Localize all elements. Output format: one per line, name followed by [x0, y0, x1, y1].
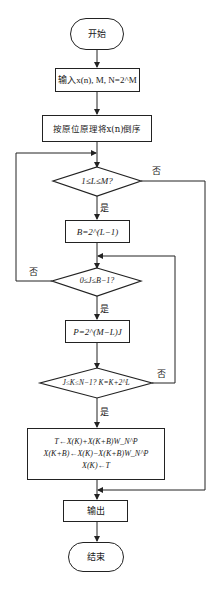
- start-terminal: 开始: [70, 18, 124, 50]
- butterfly-line-2: X(K+B)←X(K)−X(K+B)W_N^P: [44, 448, 149, 460]
- yes-label-k: 是: [100, 407, 109, 417]
- butterfly-line-1: T←X(K)+X(K+B)W_N^P: [54, 436, 138, 448]
- decision-k-text: J≤K≤N−1? K=K+2^L: [44, 377, 148, 389]
- no-label-l: 否: [152, 166, 161, 176]
- set-b-process: B=2^(L−1): [65, 220, 130, 243]
- set-p-process: P=2^(M−L)J: [65, 320, 130, 343]
- yes-label-j: 是: [100, 304, 109, 314]
- output-process: 输出: [63, 500, 128, 522]
- yes-label-l: 是: [100, 203, 109, 213]
- no-label-k: 否: [157, 369, 166, 379]
- input-process: 输入x(n), M, N=2^M: [55, 68, 140, 92]
- end-terminal: 结束: [68, 542, 124, 572]
- butterfly-process: T←X(K)+X(K+B)W_N^P X(K+B)←X(K)−X(K+B)W_N…: [27, 428, 165, 480]
- bit-reverse-process: 按原位原理将x(n)倒序: [42, 115, 152, 142]
- decision-j-text: 0≤J≤B−1?: [58, 275, 136, 287]
- decision-l-text: 1≤L≤M?: [60, 175, 134, 187]
- butterfly-line-3: X(K)←T: [82, 460, 110, 472]
- no-label-j: 否: [29, 267, 38, 277]
